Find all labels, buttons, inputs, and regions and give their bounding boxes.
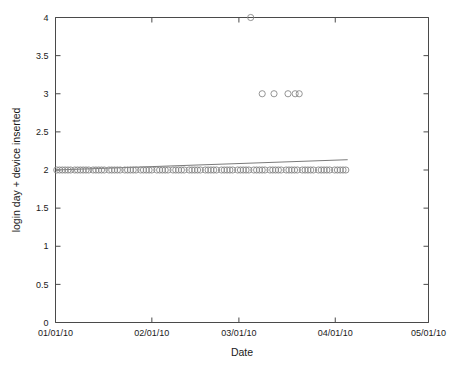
y-axis-ticks: 00.511.522.533.54 xyxy=(36,13,429,328)
y-tick-label: 3.5 xyxy=(36,51,49,61)
x-tick-label: 01/01/10 xyxy=(38,328,73,338)
data-points xyxy=(54,14,349,173)
data-point-marker xyxy=(296,91,302,97)
y-tick-label: 2 xyxy=(43,165,48,175)
y-tick-label: 2.5 xyxy=(36,127,49,137)
x-tick-label: 03/01/10 xyxy=(221,328,256,338)
scatter-plot-figure: 00.511.522.533.54 01/01/1002/01/1003/01/… xyxy=(0,0,456,365)
x-axis-ticks: 01/01/1002/01/1003/01/1004/01/1005/01/10 xyxy=(38,18,446,338)
x-tick-label: 05/01/10 xyxy=(411,328,446,338)
y-tick-label: 1 xyxy=(43,241,48,251)
y-tick-label: 0.5 xyxy=(36,280,49,290)
y-tick-label: 3 xyxy=(43,89,48,99)
y-axis-label: login day + device inserted xyxy=(10,108,22,233)
x-axis-label: Date xyxy=(231,346,253,358)
data-point-marker xyxy=(271,91,277,97)
chart-canvas: 00.511.522.533.54 01/01/1002/01/1003/01/… xyxy=(0,0,456,365)
y-tick-label: 0 xyxy=(43,318,48,328)
data-point-marker xyxy=(285,91,291,97)
y-tick-label: 4 xyxy=(43,13,48,23)
data-point-marker xyxy=(259,91,265,97)
x-tick-label: 04/01/10 xyxy=(318,328,353,338)
y-tick-label: 1.5 xyxy=(36,203,49,213)
x-tick-label: 02/01/10 xyxy=(134,328,169,338)
